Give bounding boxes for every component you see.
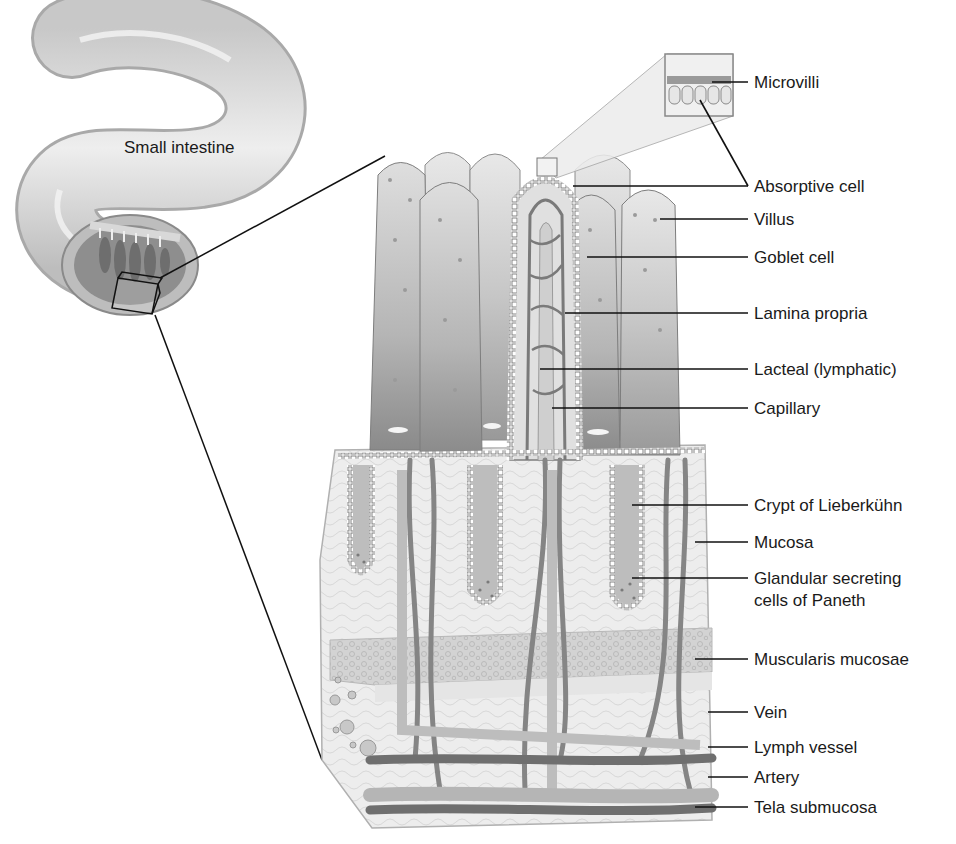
label-paneth-line2: cells of Paneth (754, 591, 866, 610)
tissue-block (320, 153, 712, 829)
label-muscularis-mucosae: Muscularis mucosae (754, 650, 909, 669)
microvilli-inset (537, 54, 733, 178)
label-absorptive-cell: Absorptive cell (754, 177, 865, 196)
label-lymph-vessel: Lymph vessel (754, 738, 857, 757)
label-vein: Vein (754, 703, 787, 722)
label-capillary: Capillary (754, 399, 821, 418)
intestine-diagram: Small intestine (0, 0, 956, 844)
label-villus: Villus (754, 210, 794, 229)
label-lamina-propria: Lamina propria (754, 304, 868, 323)
small-intestine-illustration: Small intestine (56, 28, 265, 315)
label-crypt: Crypt of Lieberkühn (754, 496, 902, 515)
label-microvilli: Microvilli (754, 73, 819, 92)
labels: Microvilli Absorptive cell Villus Goblet… (754, 73, 909, 817)
label-goblet-cell: Goblet cell (754, 248, 834, 267)
small-intestine-label: Small intestine (124, 138, 235, 157)
label-artery: Artery (754, 768, 800, 787)
label-lacteal: Lacteal (lymphatic) (754, 360, 897, 379)
label-paneth-line1: Glandular secreting (754, 569, 901, 588)
label-tela-submucosa: Tela submucosa (754, 798, 877, 817)
label-mucosa: Mucosa (754, 533, 814, 552)
